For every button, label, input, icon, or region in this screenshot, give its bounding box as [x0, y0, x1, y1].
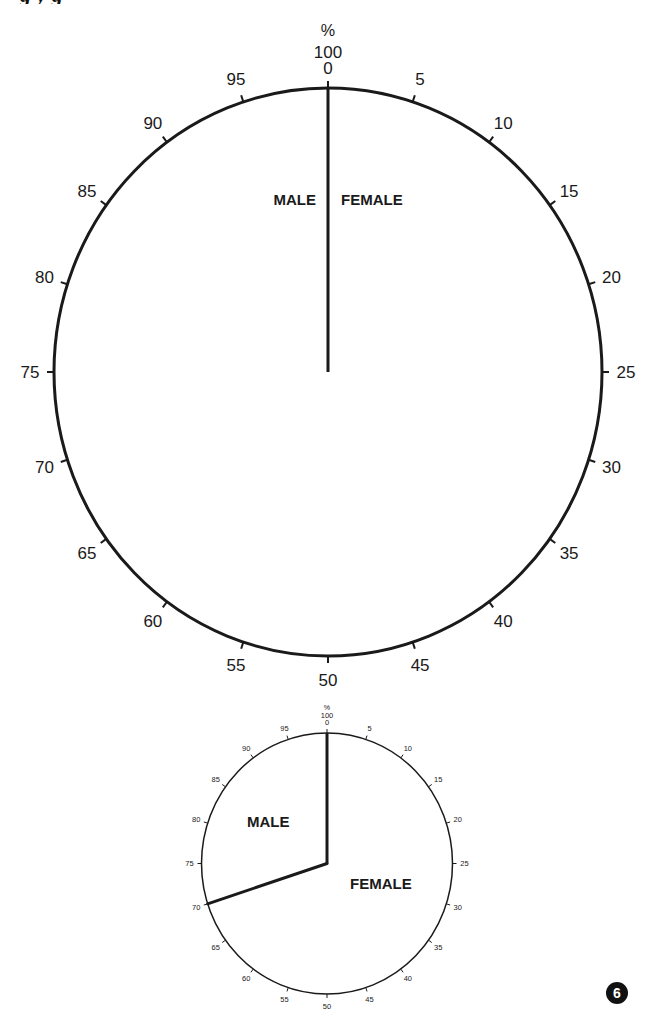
tick-label: 70 — [192, 903, 200, 912]
percent-unit-label: % — [321, 21, 335, 39]
tick-label: 25 — [617, 363, 636, 382]
tick-label: 65 — [77, 544, 96, 563]
tick-label: 55 — [280, 995, 288, 1004]
tick-label: 25 — [460, 859, 468, 868]
tick-label: 70 — [35, 458, 54, 477]
tick-mark — [429, 940, 432, 942]
page-number-badge: 6 — [606, 982, 628, 1004]
tick-mark — [446, 822, 450, 823]
tick-label: 20 — [454, 815, 462, 824]
tick-label: 0 — [325, 718, 329, 727]
segment-label-male: MALE — [274, 191, 317, 208]
tick-label: 80 — [35, 268, 54, 287]
tick-label: 40 — [404, 974, 412, 983]
tick-label: 15 — [434, 775, 442, 784]
tick-mark — [489, 137, 493, 143]
tick-label: 30 — [454, 903, 462, 912]
tick-mark — [222, 784, 225, 786]
tick-label: 10 — [404, 744, 412, 753]
tick-label: 35 — [560, 544, 579, 563]
tick-mark — [241, 642, 243, 649]
tick-mark — [550, 539, 556, 543]
tick-mark — [287, 736, 288, 740]
tick-label: 95 — [226, 70, 245, 89]
tick-label: 5 — [415, 70, 424, 89]
tick-mark — [163, 602, 167, 608]
tick-label: 75 — [185, 859, 193, 868]
pie-charts: 5101520253035404550556065707580859095%10… — [0, 0, 652, 1023]
tick-mark — [101, 539, 107, 543]
tick-mark — [401, 755, 403, 758]
tick-label: 75 — [21, 363, 40, 382]
tick-mark — [550, 201, 556, 205]
tick-mark — [413, 95, 415, 102]
filled-pie-chart: 5101520253035404550556065707580859095%10… — [185, 704, 468, 1011]
tick-label: 45 — [365, 995, 373, 1004]
tick-mark — [401, 969, 403, 972]
tick-mark — [204, 822, 208, 823]
tick-label: 15 — [560, 182, 579, 201]
tick-mark — [222, 940, 225, 942]
tick-label: 85 — [77, 182, 96, 201]
segment-label-female: FEMALE — [341, 191, 403, 208]
tick-label: 95 — [280, 724, 288, 733]
tick-label: 40 — [494, 612, 513, 631]
tick-label: 60 — [143, 612, 162, 631]
tick-mark — [241, 95, 243, 102]
tick-label: 80 — [192, 815, 200, 824]
tick-mark — [446, 904, 450, 905]
tick-label: 0 — [323, 59, 332, 78]
segment-label-female: FEMALE — [350, 875, 412, 892]
tick-label: 55 — [226, 656, 245, 675]
tick-mark — [413, 642, 415, 649]
tick-label: 90 — [143, 114, 162, 133]
tick-label: 85 — [212, 775, 220, 784]
tick-label: 10 — [494, 114, 513, 133]
tick-label: 5 — [367, 724, 371, 733]
tick-mark — [366, 736, 367, 740]
tick-label: 90 — [242, 744, 250, 753]
tick-label: 50 — [323, 1002, 331, 1011]
tick-label: 45 — [411, 656, 430, 675]
tick-label: 60 — [242, 974, 250, 983]
tick-mark — [429, 784, 432, 786]
tick-mark — [163, 137, 167, 143]
tick-label: 30 — [602, 458, 621, 477]
tick-mark — [366, 988, 367, 992]
tick-label: 65 — [212, 943, 220, 952]
split-radius-line — [208, 864, 327, 904]
tick-mark — [251, 755, 253, 758]
blank-pie-chart: 5101520253035404550556065707580859095%10… — [21, 21, 636, 690]
tick-mark — [489, 602, 493, 608]
tick-label: 35 — [434, 943, 442, 952]
segment-label-male: MALE — [247, 813, 290, 830]
tick-label: 50 — [319, 671, 338, 690]
tick-mark — [101, 201, 107, 205]
tick-label: 20 — [602, 268, 621, 287]
tick-mark — [251, 969, 253, 972]
tick-mark — [287, 988, 288, 992]
